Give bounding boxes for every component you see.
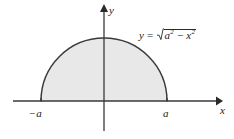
tick-label-positive-a: a — [163, 108, 169, 119]
equation-minus-sign: − — [177, 29, 183, 41]
equation-term-a-exponent: 2 — [170, 28, 174, 36]
equation-radicand: a2−x2 — [164, 29, 197, 41]
equation-equals-sign: = — [147, 29, 153, 41]
tick-label-negative-a-sign: − — [29, 107, 35, 119]
y-axis-arrowhead — [100, 4, 108, 12]
equation-term-x-exponent: 2 — [191, 28, 195, 36]
y-axis-label: y — [109, 5, 114, 16]
equation-radical: a2−x2 — [157, 28, 197, 41]
equation-lhs: y — [139, 29, 144, 41]
tick-label-negative-a: −a — [29, 108, 42, 119]
figure-container: y x −a a y= a2−x2 — [0, 0, 234, 139]
equation-annotation: y= a2−x2 — [139, 28, 196, 41]
x-axis-label: x — [220, 105, 225, 116]
tick-label-negative-a-variable: a — [36, 107, 42, 119]
square-root-icon — [157, 28, 164, 40]
